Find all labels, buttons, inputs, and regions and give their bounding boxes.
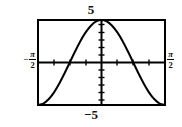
y-max-label: 5 — [0, 3, 182, 16]
x-max-denominator: 2 — [167, 61, 173, 70]
x-max-numerator: π — [167, 50, 174, 59]
x-min-denominator: 2 — [29, 61, 35, 70]
y-min-label: −5 — [0, 108, 182, 121]
x-max-fraction: π 2 — [167, 50, 174, 69]
x-max-label: π 2 — [167, 50, 182, 69]
x-min-fraction: π 2 — [29, 50, 36, 69]
x-min-numerator: π — [29, 50, 36, 59]
x-min-minus-sign: − — [23, 55, 28, 64]
x-min-label: − π 2 — [6, 50, 36, 69]
graph-figure: 5 −5 − π 2 π 2 — [0, 0, 182, 127]
